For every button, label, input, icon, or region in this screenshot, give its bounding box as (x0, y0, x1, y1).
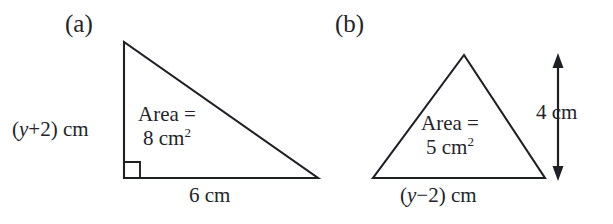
paren-open: ( (12, 117, 19, 141)
area-exponent: 2 (467, 134, 474, 149)
area-unit: cm (159, 126, 185, 150)
operator-minus: − (416, 183, 428, 207)
area-equals-text: Area = (138, 102, 196, 126)
area-exponent: 2 (184, 125, 191, 140)
constant-2: 2 (40, 117, 51, 141)
right-angle-marker-icon (124, 162, 140, 178)
triangle-b-height-label: 4 cm (536, 101, 577, 125)
area-equals-text: Area = (421, 111, 479, 135)
triangle-a-area-label: Area =8 cm2 (138, 103, 196, 150)
operator-plus: + (28, 117, 40, 141)
paren-open: ( (400, 183, 407, 207)
triangle-a-base-label: 6 cm (189, 184, 230, 208)
paren-close: ) (439, 183, 446, 207)
triangle-b-base-label: (y−2) cm (400, 184, 477, 208)
constant-2: 2 (428, 183, 439, 207)
variable-y: y (19, 117, 28, 141)
part-label-a: (a) (65, 10, 93, 38)
part-label-b: (b) (335, 10, 364, 38)
triangle-b-area-label: Area =5 cm2 (421, 112, 479, 159)
triangle-a-height-label: (y+2) cm (12, 118, 89, 142)
arrow-head-down-icon (553, 166, 564, 181)
variable-y: y (407, 183, 416, 207)
paren-close: ) (51, 117, 58, 141)
unit-cm: cm (451, 183, 477, 207)
area-value: 5 (426, 135, 437, 159)
area-unit: cm (442, 135, 468, 159)
unit-cm: cm (63, 117, 89, 141)
arrow-head-up-icon (553, 53, 564, 68)
geometry-figure: (a) (y+2) cm Area =8 cm2 6 cm (b) Area =… (0, 0, 613, 224)
area-value: 8 (143, 126, 154, 150)
